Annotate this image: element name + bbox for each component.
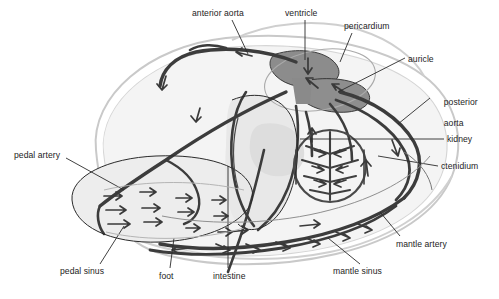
label-posterior-aorta-line2: aorta [444, 118, 464, 128]
label-anterior-aorta: anterior aorta [192, 8, 244, 18]
label-mantle-artery: mantle artery [396, 239, 447, 249]
label-auricle: auricle [408, 54, 434, 64]
label-foot: foot [159, 271, 174, 281]
anatomy-illustration [0, 0, 499, 299]
label-ventricle: ventricle [285, 8, 317, 18]
label-posterior-aorta-line1: posterior [444, 97, 478, 107]
label-mantle-sinus: mantle sinus [333, 266, 382, 276]
label-posterior-aorta: posterior aorta [434, 86, 478, 139]
label-kidney: kidney [447, 134, 472, 144]
label-pedal-artery: pedal artery [14, 150, 60, 160]
label-intestine: intestine [213, 271, 245, 281]
label-pedal-sinus: pedal sinus [60, 266, 104, 276]
diagram-canvas: anterior aorta ventricle pericardium aur… [0, 0, 499, 299]
label-ctenidium: ctenidium [441, 161, 478, 171]
label-pericardium: pericardium [344, 21, 389, 31]
